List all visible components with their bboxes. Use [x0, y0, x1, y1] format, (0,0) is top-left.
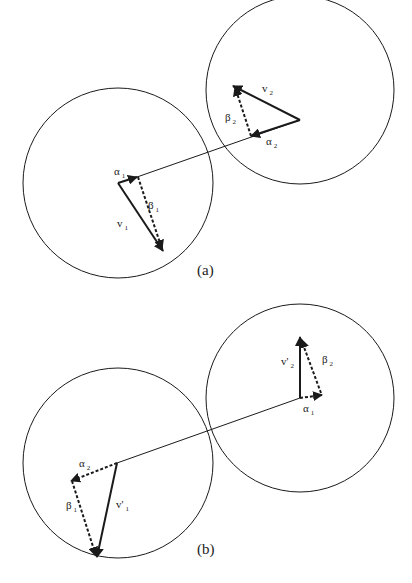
center-line [117, 398, 300, 463]
alpha2-vector [71, 463, 117, 481]
caption-a: (a) [197, 262, 214, 279]
caption-b: (b) [197, 541, 215, 558]
label-alpha1: α1 [303, 403, 314, 417]
label-v2p: v'2 [281, 356, 294, 370]
panel-a [23, 0, 394, 278]
label-beta2: β2 [322, 354, 333, 368]
v1p-vector [97, 463, 117, 557]
label-v1: v1 [117, 218, 128, 232]
label-beta2: β2 [225, 112, 236, 126]
collision-diagram [0, 0, 412, 583]
alpha2-vector [251, 120, 300, 136]
label-alpha1: α1 [114, 166, 125, 180]
label-alpha2: α2 [79, 458, 90, 472]
beta1-vector [72, 481, 96, 556]
beta2-vector [301, 339, 321, 393]
label-beta1: β1 [148, 200, 159, 214]
label-v2: v2 [262, 83, 273, 97]
alpha1-vector [300, 395, 322, 398]
circle-2 [206, 0, 394, 184]
v1-vector [118, 183, 163, 251]
label-v1p: v'1 [116, 499, 129, 513]
panel-b [23, 304, 394, 558]
label-alpha2: α2 [266, 136, 277, 150]
label-beta1: β1 [66, 500, 77, 514]
